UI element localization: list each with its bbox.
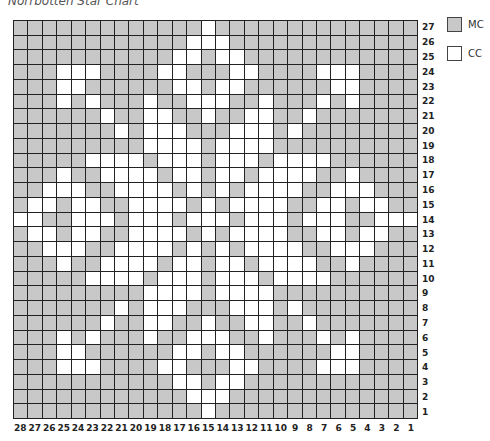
column-label: 1	[404, 423, 418, 433]
chart-cell	[274, 227, 287, 241]
chart-cell	[115, 286, 128, 300]
row-label: 17	[422, 168, 435, 183]
chart-cell	[28, 345, 41, 359]
chart-cell	[202, 213, 215, 227]
chart-cell	[375, 65, 388, 79]
chart-cell	[331, 65, 344, 79]
chart-cell	[346, 375, 359, 389]
chart-cell	[173, 316, 186, 330]
chart-cell	[28, 375, 41, 389]
chart-cell	[303, 390, 316, 404]
chart-cell	[303, 50, 316, 64]
chart-cell	[187, 168, 200, 182]
chart-cell	[259, 227, 272, 241]
chart-cell	[14, 124, 27, 138]
chart-cell	[158, 124, 171, 138]
chart-cell	[101, 404, 114, 418]
chart-cell	[317, 227, 330, 241]
chart-cell	[28, 316, 41, 330]
chart-cell	[274, 65, 287, 79]
chart-cell	[303, 272, 316, 286]
chart-cell	[28, 198, 41, 212]
row-label: 10	[422, 271, 435, 286]
chart-cell	[317, 345, 330, 359]
chart-cell	[303, 95, 316, 109]
chart-cell	[158, 65, 171, 79]
chart-cell	[259, 404, 272, 418]
chart-cell	[259, 154, 272, 168]
chart-cell	[331, 272, 344, 286]
row-labels: 2726252423222120191817161514131211109876…	[422, 20, 435, 419]
chart-cell	[404, 360, 417, 374]
column-label: 12	[245, 423, 259, 433]
chart-cell	[288, 80, 301, 94]
chart-cell	[274, 286, 287, 300]
chart-cell	[129, 95, 142, 109]
row-label: 5	[422, 345, 435, 360]
chart-cell	[303, 36, 316, 50]
chart-cell	[288, 272, 301, 286]
chart-cell	[360, 124, 373, 138]
chart-cell	[346, 257, 359, 271]
chart-cell	[245, 375, 258, 389]
chart-cell	[230, 21, 243, 35]
chart-cell	[303, 404, 316, 418]
chart-cell	[346, 272, 359, 286]
chart-cell	[288, 124, 301, 138]
chart-cell	[216, 183, 229, 197]
chart-cell	[404, 36, 417, 50]
chart-cell	[129, 301, 142, 315]
chart-cell	[173, 272, 186, 286]
chart-cell	[360, 242, 373, 256]
chart-cell	[57, 95, 70, 109]
chart-cell	[317, 404, 330, 418]
chart-cell	[86, 36, 99, 50]
column-labels: 2827262524232221201918171615141312111098…	[13, 423, 418, 433]
chart-cell	[202, 272, 215, 286]
chart-cell	[173, 139, 186, 153]
chart-cell	[43, 227, 56, 241]
chart-cell	[158, 36, 171, 50]
chart-cell	[187, 95, 200, 109]
chart-cell	[158, 286, 171, 300]
chart-cell	[245, 183, 258, 197]
chart-cell	[346, 36, 359, 50]
chart-cell	[144, 154, 157, 168]
chart-cell	[202, 50, 215, 64]
chart-cell	[144, 242, 157, 256]
chart-cell	[43, 301, 56, 315]
chart-cell	[404, 183, 417, 197]
chart-cell	[230, 154, 243, 168]
chart-cell	[404, 257, 417, 271]
chart-cell	[187, 139, 200, 153]
row-label: 9	[422, 286, 435, 301]
chart-cell	[389, 50, 402, 64]
chart-cell	[129, 257, 142, 271]
chart-cell	[57, 65, 70, 79]
chart-cell	[274, 331, 287, 345]
chart-cell	[303, 183, 316, 197]
chart-cell	[14, 360, 27, 374]
chart-cell	[216, 168, 229, 182]
chart-cell	[389, 316, 402, 330]
chart-cell	[187, 404, 200, 418]
chart-cell	[129, 375, 142, 389]
chart-cell	[43, 21, 56, 35]
chart-cell	[317, 139, 330, 153]
chart-cell	[173, 242, 186, 256]
chart-cell	[346, 360, 359, 374]
chart-cell	[173, 109, 186, 123]
chart-cell	[72, 213, 85, 227]
chart-cell	[389, 80, 402, 94]
chart-cell	[158, 331, 171, 345]
chart-cell	[389, 227, 402, 241]
chart-cell	[245, 301, 258, 315]
chart-cell	[57, 124, 70, 138]
chart-cell	[303, 168, 316, 182]
row-label: 13	[422, 227, 435, 242]
chart-cell	[14, 345, 27, 359]
chart-cell	[375, 80, 388, 94]
chart-cell	[187, 257, 200, 271]
chart-cell	[216, 154, 229, 168]
chart-cell	[288, 139, 301, 153]
